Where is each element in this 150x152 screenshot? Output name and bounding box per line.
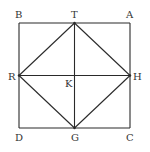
segment-RT — [19, 23, 75, 76]
label-B: B — [15, 9, 22, 20]
vertex-dot-R — [18, 74, 20, 76]
label-G: G — [71, 132, 79, 143]
vertex-dot-T — [73, 22, 75, 24]
label-T: T — [71, 9, 78, 20]
label-C: C — [126, 132, 134, 143]
segments-group — [19, 23, 130, 128]
geometry-diagram: B T A R K H D G C — [0, 0, 150, 152]
label-A: A — [125, 9, 134, 20]
label-D: D — [15, 132, 23, 143]
segment-HG — [75, 76, 131, 129]
segment-TH — [75, 23, 131, 76]
vertex-dot-G — [73, 127, 75, 129]
label-R: R — [8, 71, 16, 82]
label-K: K — [65, 78, 73, 89]
label-H: H — [133, 71, 142, 82]
vertex-dot-H — [129, 74, 131, 76]
